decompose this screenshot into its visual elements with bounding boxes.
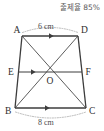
arrow-mark-EF bbox=[31, 69, 36, 74]
dimension-label-bottom: 8 cm bbox=[38, 118, 55, 127]
geometry-diagram: A D B C E F O 6 cm 8 cm bbox=[0, 0, 104, 131]
vertex-label-A: A bbox=[14, 25, 21, 35]
vertex-label-O: O bbox=[47, 76, 54, 86]
vertex-label-C: C bbox=[89, 106, 95, 116]
vertex-label-B: B bbox=[5, 106, 11, 116]
vertex-label-F: F bbox=[86, 67, 91, 77]
arrow-mark-AD bbox=[49, 33, 54, 39]
vertex-label-D: D bbox=[81, 25, 88, 35]
arrow-mark-BC bbox=[45, 105, 50, 110]
figure-container: 출제율 85% A D B C E F O 6 cm 8 cm bbox=[0, 0, 104, 131]
dimension-label-top: 6 cm bbox=[38, 22, 55, 31]
vertex-label-E: E bbox=[8, 67, 14, 77]
